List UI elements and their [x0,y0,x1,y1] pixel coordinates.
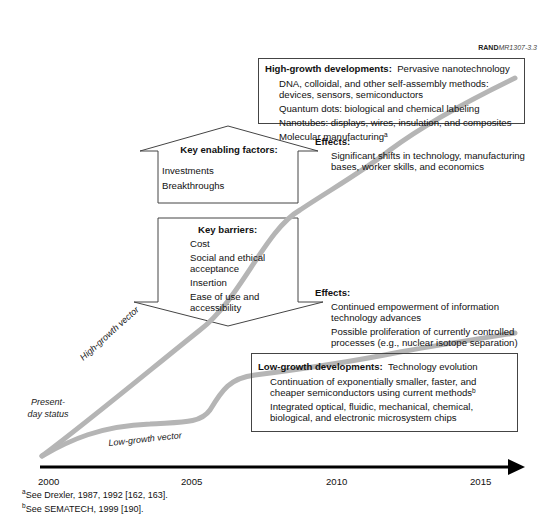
effects-low: Effects: Continued empowerment of inform… [315,287,545,348]
tick-2010: 2010 [326,476,347,487]
effects-item: Possible proliferation of currently cont… [331,326,521,348]
enabling-item: Breakthroughs [162,180,296,191]
low-growth-item: Integrated optical, fluidic, mechanical,… [270,401,511,423]
footnote-b: bSee SEMATECH, 1999 [190]. [22,504,144,514]
effects-item: Continued empowerment of information tec… [331,301,521,323]
effects-heading: Effects: [315,136,545,147]
effects-item: Significant shifts in technology, manufa… [315,150,545,172]
tick-2000: 2000 [38,476,59,487]
timeline-arrowhead [508,459,525,475]
high-growth-title: High-growth developments: Pervasive nano… [265,63,518,75]
effects-high: Effects: Significant shifts in technolog… [315,136,545,172]
footnote-a: aSee Drexler, 1987, 1992 [162, 163]. [22,490,168,500]
tick-2005: 2005 [181,476,202,487]
tick-2015: 2015 [470,476,491,487]
barrier-item: Insertion [190,277,298,288]
effects-heading: Effects: [315,287,545,298]
low-growth-box: Low-growth developments: Technology evol… [251,353,518,432]
low-growth-title: Low-growth developments: Technology evol… [258,361,511,373]
enabling-heading: Key enabling factors: [162,144,296,155]
high-growth-item: Quantum dots: biological and chemical la… [279,103,518,114]
barriers-text: Key barriers: Cost Social and ethical ac… [190,224,298,313]
high-growth-item: Nanotubes: displays, wires, insulation, … [279,117,518,128]
high-growth-box: High-growth developments: Pervasive nano… [258,58,525,124]
barrier-item: Ease of use and accessibility [190,291,298,313]
enabling-item: Investments [162,165,296,176]
present-day-status-label: Present-day status [24,396,72,420]
figure-id: RANDMR1307-3.3 [478,44,537,51]
low-growth-item: Continuation of exponentially smaller, f… [270,376,511,398]
enabling-factors-text: Key enabling factors: Investments Breakt… [162,144,296,191]
high-growth-item: DNA, colloidal, and other self-assembly … [279,78,518,100]
barrier-item: Cost [190,238,298,249]
barrier-item: Social and ethical acceptance [190,252,298,274]
barriers-heading: Key barriers: [190,224,298,235]
